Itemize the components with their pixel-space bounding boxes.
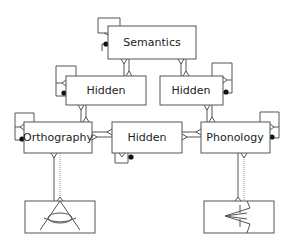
node-phonology: Phonology xyxy=(201,122,270,153)
triangle-model-diagram: Semantics Hidden Hidden Orthography Hidd… xyxy=(0,0,296,236)
node-label-orthography: Orthography xyxy=(23,131,93,144)
eye-icon xyxy=(25,201,95,233)
node-orthography: Orthography xyxy=(23,122,93,153)
node-label-hidden-center: Hidden xyxy=(127,131,166,144)
node-label-hidden-right: Hidden xyxy=(171,84,210,97)
node-hidden-right: Hidden xyxy=(160,76,223,105)
edge-orthography-eye xyxy=(51,153,63,201)
edge-semantics-hidden-left xyxy=(121,59,132,76)
mouth-icon xyxy=(204,201,274,233)
edge-hidden-left-orthography xyxy=(78,105,89,122)
edge-phonology-mouth xyxy=(235,153,247,201)
edge-orthography-hidden-center xyxy=(92,129,112,140)
node-semantics: Semantics xyxy=(108,26,196,59)
node-label-hidden-left: Hidden xyxy=(86,84,125,97)
edge-semantics-hidden-right xyxy=(178,59,189,76)
self-loop-hidden-center xyxy=(115,153,134,163)
node-label-semantics: Semantics xyxy=(123,36,181,49)
node-label-phonology: Phonology xyxy=(206,131,264,144)
edge-hidden-right-phonology xyxy=(204,105,215,122)
edge-hidden-center-phonology xyxy=(182,129,201,140)
node-hidden-center: Hidden xyxy=(112,122,182,153)
node-hidden-left: Hidden xyxy=(66,76,146,105)
